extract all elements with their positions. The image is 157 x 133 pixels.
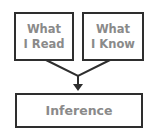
node-label-line1: What — [24, 22, 65, 37]
node-what-i-read: What I Read — [14, 12, 74, 61]
node-label-line2: I Read — [24, 37, 65, 52]
node-label-line1: What — [91, 22, 135, 37]
node-label-line2: I Know — [91, 37, 135, 52]
node-label: Inference — [46, 103, 113, 118]
node-what-i-know: What I Know — [82, 12, 144, 61]
node-inference: Inference — [15, 93, 143, 128]
arrow-down-icon — [73, 84, 83, 91]
